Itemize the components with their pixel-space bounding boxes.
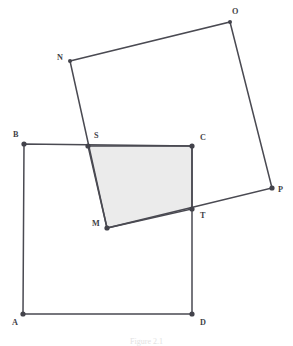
vertex-dot-B: [21, 141, 26, 146]
vertex-dot-T: [189, 206, 194, 211]
vertex-label-A: A: [12, 318, 18, 327]
vertex-label-T: T: [200, 211, 206, 220]
vertex-label-N: N: [57, 53, 63, 62]
vertex-dot-C: [189, 143, 194, 148]
vertex-dot-N: [68, 59, 72, 63]
vertex-dot-P: [269, 185, 274, 190]
vertex-dot-O: [228, 20, 232, 24]
vertex-dot-M: [104, 225, 109, 230]
vertex-label-S: S: [94, 131, 99, 140]
vertex-dot-S: [85, 143, 90, 148]
geometry-figure: A B C D N O P M S T Figure 2.1: [0, 0, 293, 346]
vertex-label-M: M: [92, 219, 100, 228]
figure-caption: Figure 2.1: [0, 337, 293, 346]
vertex-label-B: B: [13, 130, 19, 139]
vertex-label-P: P: [278, 185, 283, 194]
geometry-canvas: A B C D N O P M S T: [0, 0, 293, 346]
vertex-dot-A: [20, 311, 25, 316]
vertex-dot-D: [189, 311, 194, 316]
vertex-label-C: C: [200, 133, 206, 142]
vertex-label-O: O: [232, 7, 239, 16]
vertex-label-D: D: [200, 318, 206, 327]
